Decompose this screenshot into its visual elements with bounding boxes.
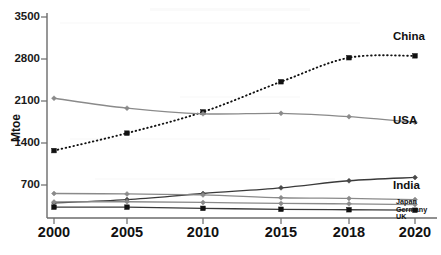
y-tick-label-3500: 3500 bbox=[14, 10, 40, 22]
x-tick-label-2005: 2005 bbox=[111, 224, 143, 240]
y-tick-label-700: 700 bbox=[21, 178, 40, 190]
x-tick-label-2015: 2015 bbox=[265, 224, 297, 240]
series-uk bbox=[52, 205, 418, 213]
data-point-china-2018 bbox=[347, 55, 352, 60]
series-china bbox=[52, 54, 418, 153]
x-tick-label-2020: 2020 bbox=[399, 224, 431, 240]
data-point-china-2000 bbox=[52, 148, 57, 153]
x-tick-label-2000: 2000 bbox=[38, 224, 70, 240]
y-tick-label-2800: 2800 bbox=[14, 52, 40, 64]
series-labels: China USA India Japan Germany UK bbox=[393, 30, 427, 221]
series-label-india: India bbox=[393, 179, 420, 191]
data-point-usa-2000 bbox=[52, 96, 57, 101]
series-line-uk bbox=[54, 207, 415, 210]
series-line-china bbox=[54, 55, 415, 150]
data-point-japan-2000 bbox=[52, 191, 57, 196]
y-axis-ticks: 3500 2800 2100 1400 700 bbox=[14, 10, 47, 190]
data-point-japan-2018 bbox=[347, 196, 352, 201]
series-line-germany bbox=[54, 202, 415, 205]
data-point-uk-2005 bbox=[125, 205, 130, 210]
series-line-japan bbox=[54, 193, 415, 199]
y-tick-label-2100: 2100 bbox=[14, 94, 40, 106]
axes-group bbox=[47, 13, 437, 218]
data-point-india-2018 bbox=[347, 178, 352, 183]
data-point-usa-2018 bbox=[347, 114, 352, 119]
data-point-uk-2018 bbox=[347, 207, 352, 212]
data-point-china-2015 bbox=[279, 79, 284, 84]
data-point-japan-2015 bbox=[279, 195, 284, 200]
line-chart-svg: 3500 2800 2100 1400 700 Mtoe 2000 2005 2… bbox=[0, 0, 441, 255]
data-point-uk-2015 bbox=[279, 207, 284, 212]
data-point-japan-2005 bbox=[125, 191, 130, 196]
x-axis-ticks: 2000 2005 2010 2015 2018 2020 bbox=[38, 218, 431, 240]
series-line-usa bbox=[54, 98, 415, 122]
data-point-uk-2010 bbox=[201, 206, 206, 211]
y-axis-title: Mtoe bbox=[9, 114, 23, 142]
series-label-usa: USA bbox=[393, 114, 417, 126]
scan-artifacts bbox=[60, 8, 360, 180]
data-point-uk-2000 bbox=[52, 205, 57, 210]
data-point-germany-2015 bbox=[279, 201, 284, 206]
x-tick-label-2018: 2018 bbox=[333, 224, 365, 240]
series-label-uk: UK bbox=[396, 212, 407, 221]
data-point-china-2020 bbox=[413, 54, 418, 59]
data-point-usa-2005 bbox=[125, 106, 130, 111]
x-tick-label-2010: 2010 bbox=[187, 224, 219, 240]
series-layer bbox=[52, 54, 418, 213]
data-point-germany-2018 bbox=[347, 201, 352, 206]
chart-container: 3500 2800 2100 1400 700 Mtoe 2000 2005 2… bbox=[0, 0, 441, 255]
data-point-germany-2010 bbox=[201, 200, 206, 205]
data-point-china-2005 bbox=[125, 131, 130, 136]
data-point-india-2015 bbox=[279, 185, 284, 190]
data-point-usa-2015 bbox=[279, 111, 284, 116]
series-label-china: China bbox=[393, 30, 426, 42]
